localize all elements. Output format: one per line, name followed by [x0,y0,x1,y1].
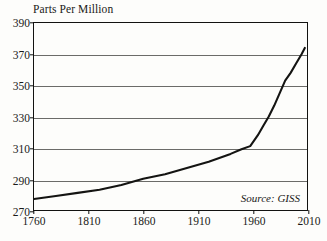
x-tick-label-1960: 1960 [243,215,266,227]
chart-figure: Parts Per Million 270290310330350370390 … [0,0,327,241]
data-series-line [34,23,307,210]
x-tick-label-1760: 1760 [23,215,46,227]
x-tick-2010 [308,210,309,214]
y-tick-label-290: 290 [13,175,30,187]
chart-title: Parts Per Million [33,3,113,15]
x-tick-1960 [253,210,254,214]
y-tick-label-310: 310 [13,143,30,155]
x-tick-label-1860: 1860 [133,215,156,227]
x-tick-1760 [33,210,34,214]
x-tick-label-1910: 1910 [188,215,211,227]
x-tick-1910 [198,210,199,214]
x-tick-1810 [88,210,89,214]
x-tick-label-1810: 1810 [78,215,101,227]
co2-trend-line [34,48,305,199]
y-tick-label-390: 390 [13,17,30,29]
source-annotation: Source: GISS [241,192,300,204]
y-tick-label-350: 350 [13,80,30,92]
x-tick-label-2010: 2010 [298,215,321,227]
y-tick-label-370: 370 [13,49,30,61]
y-tick-label-330: 330 [13,112,30,124]
plot-area: 270290310330350370390 176018101860191019… [33,22,308,211]
x-tick-1860 [143,210,144,214]
